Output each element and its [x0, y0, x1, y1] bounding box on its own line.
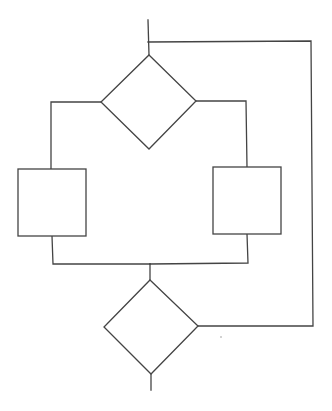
stray-dot: [220, 336, 222, 338]
flowchart-diagram: [0, 0, 332, 411]
connector-right-branch: [196, 101, 247, 167]
flowchart-canvas: [0, 0, 332, 411]
process-left-node: [18, 169, 86, 236]
decision-top-node: [101, 55, 196, 149]
connector-entry: [148, 20, 149, 55]
connector-left-merge: [52, 236, 150, 264]
connector-left-branch: [51, 102, 101, 169]
decision-bottom-node: [104, 280, 198, 374]
connector-right-merge: [150, 234, 248, 264]
process-right-node: [213, 167, 281, 234]
